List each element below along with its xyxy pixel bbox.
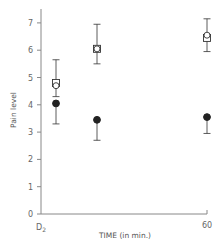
marker-circle-open xyxy=(204,32,210,38)
y-tick-label: 7 xyxy=(28,19,33,28)
marker-circle-open xyxy=(94,46,100,52)
y-tick-label: 4 xyxy=(28,101,33,110)
marker-circle-filled xyxy=(94,116,101,123)
axes xyxy=(41,9,207,214)
y-tick-label: 3 xyxy=(28,128,33,137)
y-tick-label: 6 xyxy=(28,46,33,55)
pain-level-chart: 01234567 D2 60 TIME (in min.) Pain level xyxy=(0,0,221,251)
y-ticks: 01234567 xyxy=(28,19,41,219)
x-axis-title: TIME (in min.) xyxy=(98,231,151,240)
marker-circle-filled xyxy=(53,100,60,107)
data-series xyxy=(53,19,211,140)
y-tick-label: 0 xyxy=(28,210,33,219)
y-tick-label: 2 xyxy=(28,155,33,164)
y-axis-title: Pain level xyxy=(9,92,18,128)
marker-circle-open xyxy=(53,83,59,89)
y-tick-label: 1 xyxy=(28,183,33,192)
y-tick-label: 5 xyxy=(28,74,33,83)
marker-circle-filled xyxy=(204,114,211,121)
x-tick-label-d2: D2 xyxy=(36,223,46,233)
x-tick-label-60: 60 xyxy=(202,221,212,230)
